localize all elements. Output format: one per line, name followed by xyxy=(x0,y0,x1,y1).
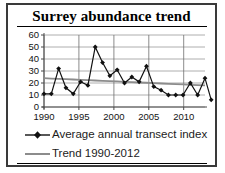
data-point-markers xyxy=(42,45,214,103)
legend-item-trend-1990-2012: Trend 1990-2012 xyxy=(24,144,214,163)
data-point-marker xyxy=(49,91,54,96)
y-tick-label: 50 xyxy=(28,41,39,52)
legend-label: Trend 1990-2012 xyxy=(51,147,140,160)
y-tick-label: 40 xyxy=(28,53,39,64)
line-key-icon xyxy=(24,147,51,161)
gridlines xyxy=(44,35,205,107)
line-marker-key-icon xyxy=(24,128,51,142)
legend-divider xyxy=(17,163,207,164)
y-tick-label: 60 xyxy=(28,29,39,40)
y-tick-labels: 60 50 40 30 20 10 0 xyxy=(28,29,39,112)
x-tick-label: 1995 xyxy=(68,111,89,122)
x-tick-label: 2010 xyxy=(173,111,194,122)
data-point-marker xyxy=(144,64,149,69)
legend-item-average-annual-transect-index: Average annual transect index xyxy=(24,125,214,144)
chart-legend: Average annual transect index Trend 1990… xyxy=(24,125,214,163)
data-point-marker xyxy=(86,83,91,88)
y-tick-label: 10 xyxy=(28,89,39,100)
data-point-marker xyxy=(173,93,178,98)
series-average-annual-transect-index xyxy=(44,47,211,100)
plot-area: 60 50 40 30 20 10 0 1990 1995 2000 2005 … xyxy=(8,27,219,123)
x-tick-label: 2005 xyxy=(138,111,159,122)
y-tick-label: 30 xyxy=(28,65,39,76)
y-tick-label: 20 xyxy=(28,77,39,88)
data-point-marker xyxy=(203,76,208,81)
x-tick-label: 2000 xyxy=(103,111,124,122)
legend-label: Average annual transect index xyxy=(51,128,207,141)
data-point-marker xyxy=(209,97,214,102)
data-point-marker xyxy=(93,45,98,50)
chart-card: Surrey abundance trend xyxy=(6,3,217,167)
line-chart-svg: 60 50 40 30 20 10 0 1990 1995 2000 2005 … xyxy=(8,27,219,123)
x-tick-label: 1990 xyxy=(33,111,54,122)
data-point-marker xyxy=(100,60,105,65)
x-tick-labels: 1990 1995 2000 2005 2010 xyxy=(33,111,194,122)
data-point-marker xyxy=(151,84,156,89)
data-point-marker xyxy=(56,66,61,71)
chart-title: Surrey abundance trend xyxy=(8,8,215,25)
